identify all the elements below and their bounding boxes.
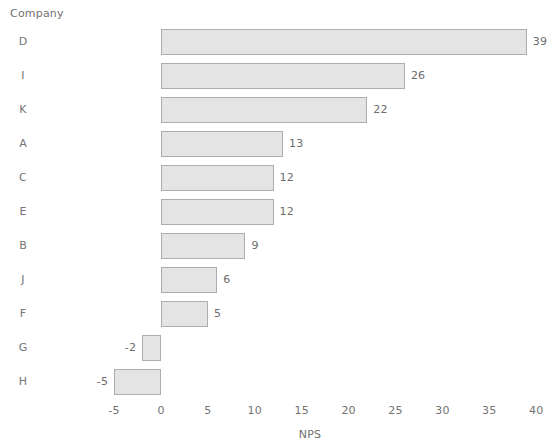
bar[interactable] (161, 63, 405, 89)
x-tick-label: 20 (341, 404, 355, 417)
bar[interactable] (161, 233, 245, 259)
bar-row: K22 (0, 93, 560, 127)
bar[interactable] (114, 369, 161, 395)
category-label: A (0, 127, 46, 161)
bar-value-label: 9 (251, 229, 258, 263)
bar[interactable] (161, 165, 274, 191)
x-tick-label: 40 (529, 404, 543, 417)
bar[interactable] (161, 267, 217, 293)
bar-row: G-2 (0, 331, 560, 365)
category-label: B (0, 229, 46, 263)
bar-row: D39 (0, 25, 560, 59)
bar-row: J6 (0, 263, 560, 297)
bar[interactable] (161, 199, 274, 225)
bar-value-label: 22 (373, 93, 387, 127)
category-label: E (0, 195, 46, 229)
category-label: G (0, 331, 46, 365)
bar[interactable] (142, 335, 161, 361)
bar-value-label: -2 (120, 331, 136, 365)
x-tick-label: 0 (157, 404, 164, 417)
bar-value-label: -5 (92, 365, 108, 399)
x-tick-label: 35 (482, 404, 496, 417)
bar-value-label: 12 (280, 195, 294, 229)
x-axis-title: NPS (299, 428, 322, 441)
bar-row: E12 (0, 195, 560, 229)
x-tick-label: 15 (294, 404, 308, 417)
bar-row: A13 (0, 127, 560, 161)
bar-value-label: 26 (411, 59, 425, 93)
category-label: F (0, 297, 46, 331)
category-label: J (0, 263, 46, 297)
category-label: C (0, 161, 46, 195)
bar-value-label: 39 (533, 25, 547, 59)
x-tick-label: 25 (388, 404, 402, 417)
category-label: I (0, 59, 46, 93)
bar-row: B9 (0, 229, 560, 263)
x-axis: -50510152025303540 (0, 404, 560, 426)
category-label: D (0, 25, 46, 59)
bar-value-label: 5 (214, 297, 221, 331)
category-label: H (0, 365, 46, 399)
bar[interactable] (161, 97, 367, 123)
bar-row: I26 (0, 59, 560, 93)
bar-row: H-5 (0, 365, 560, 399)
plot-area: D39I26K22A13C12E12B9J6F5G-2H-5 (0, 0, 560, 446)
bar[interactable] (161, 29, 527, 55)
bar-value-label: 13 (289, 127, 303, 161)
x-tick-label: -5 (108, 404, 119, 417)
bar-value-label: 12 (280, 161, 294, 195)
x-tick-label: 10 (248, 404, 262, 417)
bar-row: C12 (0, 161, 560, 195)
category-label: K (0, 93, 46, 127)
nps-bar-chart: Company D39I26K22A13C12E12B9J6F5G-2H-5 -… (0, 0, 560, 446)
bar-row: F5 (0, 297, 560, 331)
bar[interactable] (161, 301, 208, 327)
x-tick-label: 30 (435, 404, 449, 417)
bar-value-label: 6 (223, 263, 230, 297)
x-tick-label: 5 (204, 404, 211, 417)
bar[interactable] (161, 131, 283, 157)
